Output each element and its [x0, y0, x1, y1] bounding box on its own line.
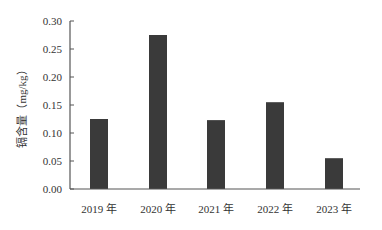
- bar-2021: [207, 120, 225, 189]
- y-tick-label: 0.15: [43, 99, 63, 111]
- y-tick-label: 0.30: [43, 15, 63, 27]
- x-tick-label: 2023 年: [316, 202, 352, 215]
- x-tick-label: 2021 年: [198, 202, 234, 215]
- bars: [90, 35, 343, 189]
- bar-2022: [266, 102, 284, 189]
- bar-2023: [325, 158, 343, 189]
- x-tick-label: 2020 年: [140, 202, 176, 215]
- x-axis: 2019 年2020 年2021 年2022 年2023 年: [70, 189, 360, 215]
- y-tick-label: 0.25: [43, 43, 63, 55]
- x-tick-label: 2022 年: [257, 202, 293, 215]
- y-tick-label: 0.20: [43, 71, 63, 83]
- bar-chart: 0.000.050.100.150.200.250.30 2019 年2020 …: [0, 0, 382, 230]
- y-axis-title: 镉含量（mg/kg）: [15, 64, 28, 147]
- y-tick-label: 0.05: [43, 155, 63, 167]
- bar-2020: [149, 35, 167, 189]
- y-axis: 0.000.050.100.150.200.250.30: [43, 15, 74, 195]
- y-tick-label: 0.00: [43, 183, 63, 195]
- x-tick-label: 2019 年: [81, 202, 117, 215]
- bar-2019: [90, 119, 108, 189]
- y-tick-label: 0.10: [43, 127, 63, 139]
